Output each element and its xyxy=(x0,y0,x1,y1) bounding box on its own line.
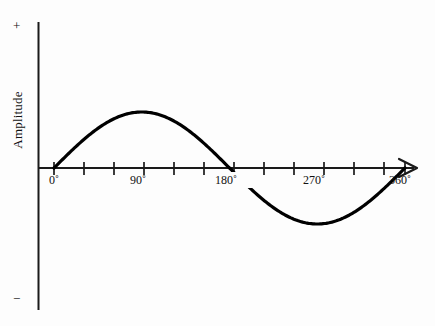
x-tick-label-0: 0˚ xyxy=(31,174,77,186)
x-tick-label-180: 180˚ xyxy=(203,174,249,186)
y-axis-label: Amplitude xyxy=(10,84,26,156)
sine-wave-chart: + − Amplitude 0˚ 90˚ 180˚ 270˚ 360˚ xyxy=(0,0,435,326)
x-tick-label-90: 90˚ xyxy=(115,174,161,186)
plot-area xyxy=(0,0,435,326)
axis-negative-sign: − xyxy=(13,292,20,305)
axis-positive-sign: + xyxy=(13,19,20,32)
x-tick-label-360: 360˚ xyxy=(377,174,423,186)
x-tick-label-270: 270˚ xyxy=(291,174,337,186)
